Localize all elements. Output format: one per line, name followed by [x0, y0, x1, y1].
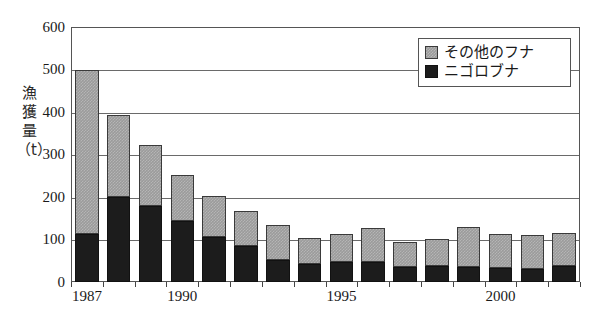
bar-segment-other-funa-1990 — [171, 175, 195, 221]
x-axis-tick — [357, 282, 358, 287]
bar-segment-nigorobuna-1992 — [234, 246, 258, 282]
x-tick-label-1990: 1990 — [167, 288, 197, 304]
x-axis-tick — [548, 282, 549, 287]
bar-segment-other-funa-1993 — [266, 225, 290, 259]
bar-segment-nigorobuna-1988 — [107, 197, 131, 282]
legend-entry-other-funa: その他のフナ — [425, 43, 564, 62]
bar-1989 — [139, 145, 163, 282]
y-axis-title-char-1: 漁 — [16, 84, 42, 103]
bar-segment-other-funa-2000 — [489, 234, 513, 268]
legend-swatch-nigorobuna-icon — [425, 65, 438, 78]
y-axis-title-char-3: 量 — [16, 122, 42, 141]
bar-segment-other-funa-1998 — [425, 239, 449, 266]
bar-2000 — [489, 234, 513, 282]
bar-segment-nigorobuna-2000 — [489, 268, 513, 282]
bar-segment-nigorobuna-1995 — [330, 262, 354, 282]
bar-1999 — [457, 227, 481, 282]
x-axis-tick — [326, 282, 327, 287]
bar-segment-other-funa-1995 — [330, 234, 354, 262]
bar-1993 — [266, 225, 290, 282]
x-axis-tick — [580, 282, 581, 287]
bar-segment-other-funa-1989 — [139, 145, 163, 205]
bar-segment-nigorobuna-2002 — [552, 266, 576, 282]
y-tick-label-0: 0 — [21, 275, 65, 290]
bar-segment-other-funa-1987 — [75, 70, 99, 235]
bar-segment-other-funa-1999 — [457, 227, 481, 267]
bar-segment-nigorobuna-2001 — [521, 269, 545, 282]
x-axis-tick — [421, 282, 422, 287]
y-tick-label-200: 200 — [21, 190, 65, 205]
bar-segment-other-funa-2001 — [521, 235, 545, 269]
bar-segment-other-funa-1996 — [361, 228, 385, 262]
legend-label-nigorobuna: ニゴロブナ — [444, 63, 519, 80]
bar-1994 — [298, 238, 322, 282]
bar-1988 — [107, 115, 131, 282]
bar-segment-nigorobuna-1999 — [457, 267, 481, 282]
x-axis-tick — [135, 282, 136, 287]
legend-entry-nigorobuna: ニゴロブナ — [425, 62, 564, 81]
y-tick-label-500: 500 — [21, 62, 65, 77]
x-axis-tick — [294, 282, 295, 287]
bar-segment-nigorobuna-1993 — [266, 260, 290, 282]
bar-1992 — [234, 211, 258, 282]
x-axis-tick — [389, 282, 390, 287]
bar-2002 — [552, 233, 576, 282]
x-axis-tick — [103, 282, 104, 287]
bar-segment-nigorobuna-1994 — [298, 264, 322, 282]
bar-1996 — [361, 228, 385, 282]
y-tick-label-300: 300 — [21, 147, 65, 162]
legend-label-other-funa: その他のフナ — [444, 44, 534, 61]
x-axis-tick — [516, 282, 517, 287]
bar-1997 — [393, 242, 417, 282]
bar-segment-other-funa-1992 — [234, 211, 258, 246]
bar-segment-other-funa-1988 — [107, 115, 131, 197]
bar-segment-nigorobuna-1997 — [393, 267, 417, 282]
x-tick-label-2000: 2000 — [485, 288, 515, 304]
bar-1998 — [425, 239, 449, 282]
fishery-catch-stacked-bar-chart: 漁 獲 量 （t） 600 500 400 300 200 100 0 1987… — [0, 0, 613, 327]
y-tick-label-100: 100 — [21, 232, 65, 247]
bar-segment-nigorobuna-1996 — [361, 262, 385, 282]
x-axis-tick — [230, 282, 231, 287]
bar-segment-other-funa-1997 — [393, 242, 417, 267]
x-tick-label-1987: 1987 — [72, 288, 102, 304]
x-axis-tick — [262, 282, 263, 287]
x-tick-label-1995: 1995 — [326, 288, 356, 304]
x-axis-tick — [453, 282, 454, 287]
bar-segment-nigorobuna-1991 — [202, 237, 226, 282]
bar-1987 — [75, 70, 99, 283]
x-axis-tick — [485, 282, 486, 287]
bar-segment-nigorobuna-1989 — [139, 206, 163, 283]
bar-segment-other-funa-1991 — [202, 196, 226, 237]
bar-segment-other-funa-2002 — [552, 233, 576, 266]
x-axis-tick — [198, 282, 199, 287]
x-axis-tick — [71, 282, 72, 287]
bar-segment-other-funa-1994 — [298, 238, 322, 264]
legend-swatch-other-funa-icon — [425, 46, 438, 59]
x-axis-tick — [166, 282, 167, 287]
y-tick-label-600: 600 — [21, 20, 65, 35]
bar-segment-nigorobuna-1990 — [171, 221, 195, 282]
bar-2001 — [521, 235, 545, 282]
bar-1991 — [202, 196, 226, 282]
legend: その他のフナ ニゴロブナ — [418, 38, 571, 87]
y-tick-label-400: 400 — [21, 105, 65, 120]
bar-segment-nigorobuna-1987 — [75, 234, 99, 282]
bar-segment-nigorobuna-1998 — [425, 266, 449, 282]
bar-1995 — [330, 234, 354, 282]
bar-1990 — [171, 175, 195, 282]
